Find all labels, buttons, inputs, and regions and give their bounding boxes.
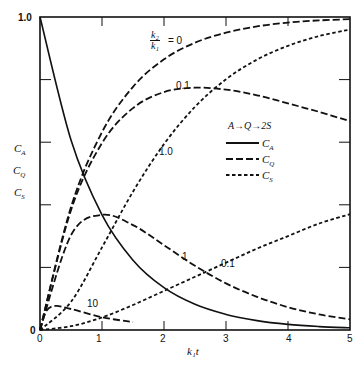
x-tick-label-1: 1 xyxy=(96,334,102,344)
y-tick-label-top: 1.0 xyxy=(18,13,32,23)
series-c-q-k2-k1-0-1 xyxy=(40,88,350,330)
series-c-s-k2-k1-1 xyxy=(40,30,350,331)
legend-ca-sub: A xyxy=(269,144,273,152)
y-axis-label-ca: CA xyxy=(14,143,26,158)
ylabel-cq-sub: Q xyxy=(20,171,25,179)
series-c-q-k2-k1-0 xyxy=(40,19,350,330)
legend-cs-sub: S xyxy=(269,176,273,184)
y-axis-label-cs: CS xyxy=(14,187,25,202)
x-tick-label-3: 3 xyxy=(223,334,229,344)
y-tick-label-zero: 0 xyxy=(30,326,36,336)
x-axis-label: k₁t xyxy=(187,346,199,356)
curve-label-cq-0.1: 0.1 xyxy=(176,81,190,91)
ratio-equals-zero: = 0 xyxy=(168,36,182,46)
legend-label-cs: CS xyxy=(262,170,273,185)
legend-label-ca: CA xyxy=(262,138,274,153)
legend-label-cq: CQ xyxy=(262,154,274,169)
plot-curves xyxy=(40,17,350,330)
y-axis-label-cq: CQ xyxy=(13,165,25,180)
legend-lines xyxy=(226,143,259,175)
chart-canvas xyxy=(0,0,364,365)
curve-label-cq-1: 1 xyxy=(182,252,188,262)
curve-label-cq-10: 10 xyxy=(87,299,98,309)
x-tick-label-2: 2 xyxy=(160,334,166,344)
x-tick-label-5: 5 xyxy=(347,334,353,344)
plot-frame xyxy=(40,17,350,330)
legend-reaction-scheme: A→Q→2S xyxy=(228,121,271,131)
ratio-fraction: k₂ k₁ xyxy=(150,30,160,51)
x-tick-label-0: 0 xyxy=(37,334,43,344)
ratio-denominator: k₁ xyxy=(150,41,160,51)
x-axis-label-text: k₁t xyxy=(187,345,199,357)
ylabel-ca-sub: A xyxy=(21,149,25,157)
ylabel-cs-sub: S xyxy=(21,193,25,201)
legend-cq-sub: Q xyxy=(269,160,274,168)
curve-label-cs-1.0: 1.0 xyxy=(159,147,173,157)
x-tick-label-4: 4 xyxy=(286,334,292,344)
plot-border xyxy=(40,17,350,330)
curve-label-cs-0.1: 0.1 xyxy=(221,259,235,269)
